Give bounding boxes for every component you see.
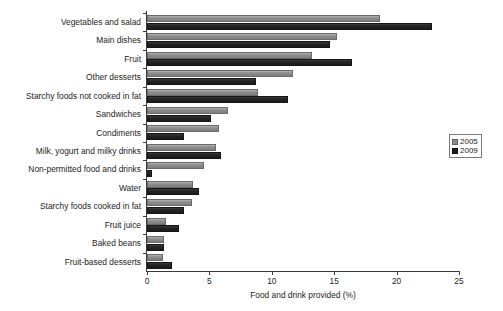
y-axis-tick bbox=[143, 160, 147, 161]
category-row: Fruit bbox=[147, 50, 459, 68]
chart-legend: 2005 2009 bbox=[449, 134, 482, 158]
x-axis-tick-label: 10 bbox=[267, 277, 276, 285]
category-row: Vegetables and salad bbox=[147, 13, 459, 31]
category-label: Vegetables and salad bbox=[61, 18, 141, 26]
y-axis-tick bbox=[143, 142, 147, 143]
category-row: Water bbox=[147, 179, 459, 197]
x-axis-tick-label: 20 bbox=[392, 277, 401, 285]
bar-2005 bbox=[147, 181, 193, 188]
category-row: Main dishes bbox=[147, 31, 459, 49]
x-axis-tick bbox=[209, 271, 210, 275]
category-label: Fruit bbox=[124, 55, 141, 63]
category-label: Water bbox=[119, 184, 141, 192]
legend-item-2009: 2009 bbox=[452, 146, 478, 155]
bar-2005 bbox=[147, 218, 166, 225]
x-axis-tick bbox=[147, 271, 148, 275]
y-axis-tick bbox=[143, 253, 147, 254]
x-axis-title: Food and drink provided (%) bbox=[147, 290, 459, 300]
x-axis-tick bbox=[334, 271, 335, 275]
bar-2009 bbox=[147, 96, 288, 103]
category-row: Baked beans bbox=[147, 234, 459, 252]
category-row: Other desserts bbox=[147, 68, 459, 86]
bar-2009 bbox=[147, 23, 432, 30]
bar-2009 bbox=[147, 188, 199, 195]
legend-label-2005: 2005 bbox=[460, 137, 478, 146]
y-axis-tick bbox=[143, 234, 147, 235]
category-label: Milk, yogurt and milky drinks bbox=[36, 147, 141, 155]
bar-2005 bbox=[147, 199, 192, 206]
bar-2009 bbox=[147, 207, 184, 214]
category-label: Fruit juice bbox=[105, 221, 141, 229]
category-label: Baked beans bbox=[92, 239, 141, 247]
legend-swatch-2005 bbox=[452, 139, 458, 145]
bar-2005 bbox=[147, 70, 293, 77]
bar-2005 bbox=[147, 162, 204, 169]
category-row: Fruit-based desserts bbox=[147, 253, 459, 271]
bar-2009 bbox=[147, 170, 152, 177]
x-axis-line bbox=[146, 271, 459, 272]
bar-2009 bbox=[147, 152, 221, 159]
category-row: Starchy foods not cooked in fat bbox=[147, 87, 459, 105]
y-axis-tick bbox=[143, 179, 147, 180]
y-axis-tick bbox=[143, 197, 147, 198]
category-row: Fruit juice bbox=[147, 216, 459, 234]
category-row: Milk, yogurt and milky drinks bbox=[147, 142, 459, 160]
bar-2005 bbox=[147, 89, 258, 96]
x-axis-tick bbox=[272, 271, 273, 275]
category-label: Main dishes bbox=[96, 36, 141, 44]
x-axis-tick-label: 15 bbox=[330, 277, 339, 285]
x-axis-tick bbox=[397, 271, 398, 275]
category-label: Starchy foods not cooked in fat bbox=[26, 92, 141, 100]
bar-2005 bbox=[147, 144, 216, 151]
bar-2005 bbox=[147, 107, 228, 114]
legend-swatch-2009 bbox=[452, 148, 458, 154]
y-axis-tick bbox=[143, 68, 147, 69]
y-axis-tick bbox=[143, 50, 147, 51]
y-axis-tick bbox=[143, 216, 147, 217]
x-axis-tick bbox=[459, 271, 460, 275]
legend-label-2009: 2009 bbox=[460, 146, 478, 155]
bar-2005 bbox=[147, 125, 219, 132]
category-label: Sandwiches bbox=[96, 110, 141, 118]
bar-2009 bbox=[147, 262, 172, 269]
bar-2009 bbox=[147, 59, 352, 66]
bar-chart: Vegetables and saladMain dishesFruitOthe… bbox=[0, 0, 503, 311]
bar-2005 bbox=[147, 52, 312, 59]
x-axis-tick-label: 0 bbox=[145, 277, 150, 285]
bar-2005 bbox=[147, 33, 337, 40]
x-axis-tick-label: 5 bbox=[207, 277, 212, 285]
category-label: Other desserts bbox=[86, 73, 141, 81]
category-row: Condiments bbox=[147, 124, 459, 142]
bar-2005 bbox=[147, 236, 164, 243]
bar-2005 bbox=[147, 15, 380, 22]
category-row: Non-permitted food and drinks bbox=[147, 160, 459, 178]
category-label: Fruit-based desserts bbox=[65, 258, 141, 266]
y-axis-tick bbox=[143, 31, 147, 32]
legend-item-2005: 2005 bbox=[452, 137, 478, 146]
category-label: Condiments bbox=[96, 129, 141, 137]
x-axis-tick-label: 25 bbox=[454, 277, 463, 285]
bar-2009 bbox=[147, 115, 211, 122]
y-axis-tick bbox=[143, 87, 147, 88]
bar-2009 bbox=[147, 78, 256, 85]
bar-2009 bbox=[147, 225, 179, 232]
bar-2009 bbox=[147, 133, 184, 140]
plot-area: Vegetables and saladMain dishesFruitOthe… bbox=[147, 13, 459, 271]
bar-2005 bbox=[147, 254, 163, 261]
category-label: Non-permitted food and drinks bbox=[28, 165, 141, 173]
category-row: Sandwiches bbox=[147, 105, 459, 123]
category-row: Starchy foods cooked in fat bbox=[147, 197, 459, 215]
y-axis-tick bbox=[143, 105, 147, 106]
y-axis-tick bbox=[143, 13, 147, 14]
bar-2009 bbox=[147, 244, 164, 251]
y-axis-tick bbox=[143, 124, 147, 125]
bar-2009 bbox=[147, 41, 330, 48]
category-label: Starchy foods cooked in fat bbox=[40, 202, 141, 210]
